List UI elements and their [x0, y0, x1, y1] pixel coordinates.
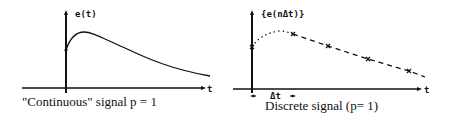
left-y-arrow-icon	[64, 10, 68, 15]
right-caption: Discrete signal (p= 1)	[265, 98, 378, 113]
left-x-arrow-icon	[201, 86, 206, 90]
continuous-signal-panel: t e(t) "Continuous" signal p = 1	[22, 9, 212, 109]
continuous-curve	[66, 32, 210, 76]
discrete-signal-panel: t {e(nΔt)} Δt Discrete signal (p= 1)	[233, 9, 429, 113]
right-x-arrow-icon	[417, 87, 422, 91]
left-y-label: e(t)	[75, 9, 97, 19]
interval-left-arrow-icon	[250, 95, 254, 98]
right-y-label: {e(nΔt)}	[261, 9, 304, 19]
right-y-arrow-icon	[250, 10, 254, 15]
left-caption: "Continuous" signal p = 1	[22, 94, 157, 109]
signal-diagram: t e(t) "Continuous" signal p = 1 t {e(nΔ…	[0, 0, 451, 122]
initial-value-dot	[64, 48, 67, 51]
left-x-label: t	[207, 84, 212, 94]
right-x-label: t	[424, 85, 429, 95]
rise-dotted-curve	[252, 31, 293, 47]
sample-markers	[250, 32, 411, 73]
sample-marker-icon	[366, 57, 370, 61]
decay-dashed-line	[293, 34, 425, 77]
